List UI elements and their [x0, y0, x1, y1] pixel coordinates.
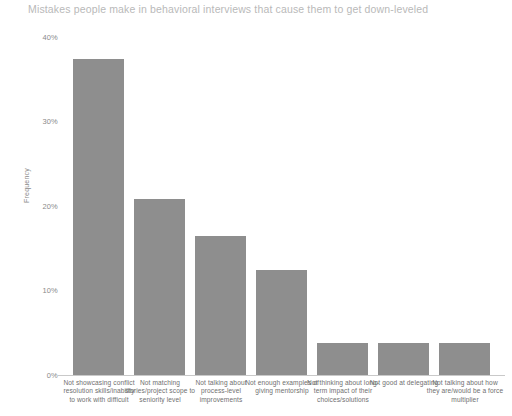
- y-tick-label: 30%: [24, 117, 58, 126]
- x-axis-tick-labels: Not showcasing conflict resolution skill…: [58, 0, 512, 416]
- y-tick-label: 10%: [24, 286, 58, 295]
- y-axis-tick-labels: 40% 30% 20% 10% 0%: [12, 0, 58, 416]
- y-tick-label: 20%: [24, 202, 58, 211]
- x-tick-label: Not talking about how they are/would be …: [426, 379, 504, 404]
- y-tick-label: 0%: [24, 371, 58, 380]
- y-tick-label: 40%: [24, 33, 58, 42]
- bar-chart: Mistakes people make in behavioral inter…: [0, 0, 512, 416]
